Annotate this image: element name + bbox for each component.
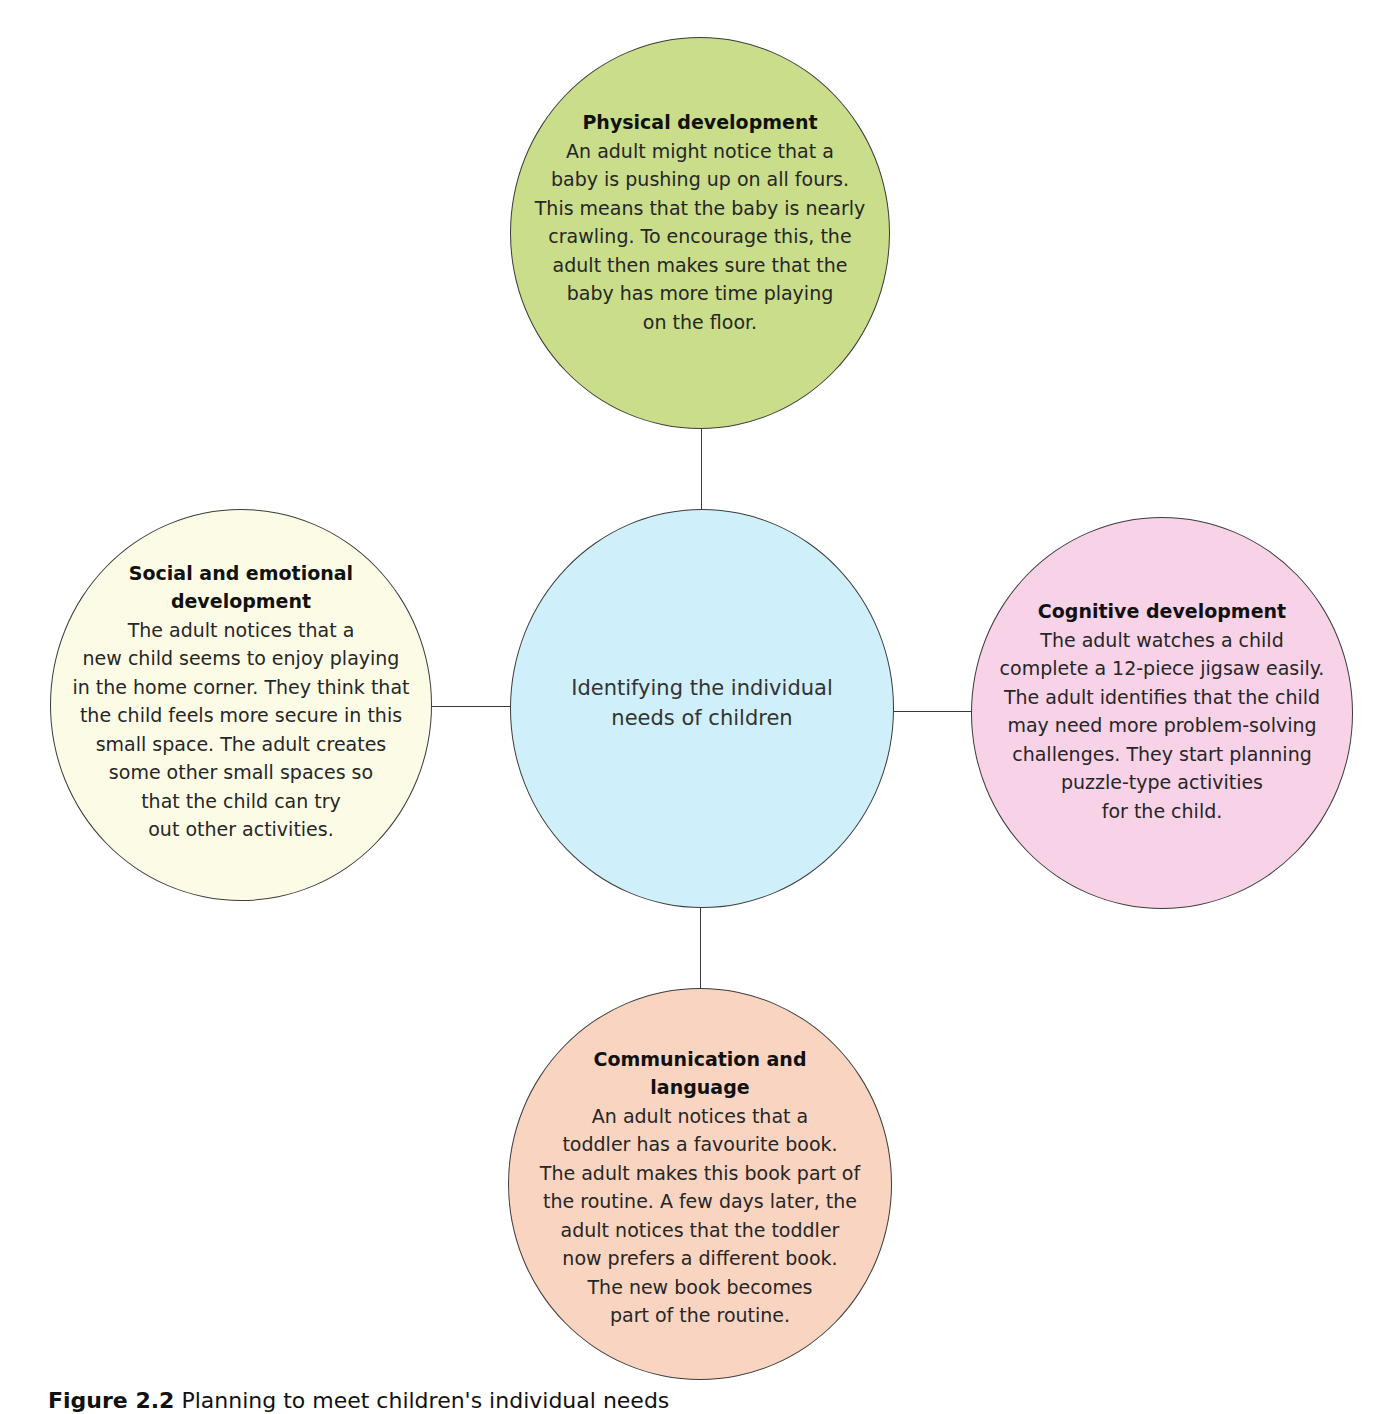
node-text-line: puzzle-type activities — [1061, 768, 1263, 797]
node-text-line: adult then makes sure that the — [553, 251, 848, 280]
node-text-line: small space. The adult creates — [96, 730, 387, 759]
node-text-line: out other activities. — [148, 815, 334, 844]
node-text-line: in the home corner. They think that — [73, 673, 410, 702]
connector-bottom — [700, 902, 701, 990]
node-communication-language: Communication and language An adult noti… — [508, 988, 892, 1380]
node-title: Physical development — [582, 108, 817, 137]
node-title: language — [650, 1073, 749, 1102]
node-text-line: An adult might notice that a — [566, 137, 834, 166]
node-text-line: on the floor. — [643, 308, 757, 337]
hub-text-line: needs of children — [611, 703, 792, 733]
figure-caption-text: Planning to meet children's individual n… — [181, 1388, 669, 1413]
node-text-line: toddler has a favourite book. — [562, 1130, 837, 1159]
node-text-line: baby is pushing up on all fours. — [551, 165, 849, 194]
node-text-line: baby has more time playing — [567, 279, 834, 308]
node-text-line: new child seems to enjoy playing — [83, 644, 400, 673]
node-text-line: may need more problem-solving — [1007, 711, 1316, 740]
node-text-line: crawling. To encourage this, the — [548, 222, 851, 251]
connector-right — [892, 711, 972, 712]
node-text-line: An adult notices that a — [592, 1102, 808, 1131]
node-text-line: The adult notices that a — [128, 616, 355, 645]
node-title: Communication and — [594, 1045, 807, 1074]
node-text-line: This means that the baby is nearly — [535, 194, 866, 223]
node-title: Cognitive development — [1038, 597, 1286, 626]
node-text-line: challenges. They start planning — [1012, 740, 1312, 769]
node-title: Social and emotional — [129, 559, 353, 588]
node-text-line: for the child. — [1102, 797, 1223, 826]
node-text-line: now prefers a different book. — [562, 1244, 837, 1273]
node-physical-development: Physical development An adult might noti… — [510, 37, 890, 429]
node-text-line: the routine. A few days later, the — [543, 1187, 857, 1216]
node-text-line: The adult makes this book part of — [540, 1159, 860, 1188]
node-center-hub: Identifying the individual needs of chil… — [510, 509, 894, 908]
connector-left — [430, 706, 510, 707]
connector-top — [701, 428, 702, 512]
node-text-line: part of the routine. — [610, 1301, 790, 1330]
node-text-line: complete a 12-piece jigsaw easily. — [1000, 654, 1325, 683]
figure-caption: Figure 2.2 Planning to meet children's i… — [48, 1388, 669, 1414]
node-text-line: The new book becomes — [588, 1273, 813, 1302]
node-text-line: some other small spaces so — [109, 758, 373, 787]
node-text-line: adult notices that the toddler — [561, 1216, 840, 1245]
figure-label: Figure 2.2 — [48, 1388, 174, 1413]
node-text-line: The adult watches a child — [1040, 626, 1283, 655]
node-social-emotional-development: Social and emotional development The adu… — [50, 509, 432, 901]
node-title: development — [171, 587, 311, 616]
node-text-line: the child feels more secure in this — [80, 701, 402, 730]
node-text-line: The adult identifies that the child — [1004, 683, 1320, 712]
node-text-line: that the child can try — [141, 787, 341, 816]
hub-text-line: Identifying the individual — [571, 673, 832, 703]
node-cognitive-development: Cognitive development The adult watches … — [971, 517, 1353, 909]
